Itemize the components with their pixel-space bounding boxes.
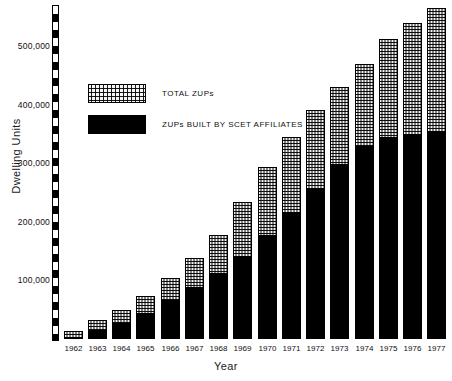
plot-area — [61, 5, 449, 339]
bar-1968 — [209, 235, 228, 339]
legend-label-scet-affiliates: ZUPs BUILT BY SCET AFFILIATES — [162, 120, 303, 129]
bar-1962 — [64, 331, 83, 339]
bar-1972 — [306, 110, 325, 339]
bar-segment-scet-affiliates — [209, 273, 228, 339]
bar-1977 — [427, 8, 446, 339]
bar-segment-scet-affiliates — [355, 146, 374, 339]
bar-segment-scet-affiliates — [282, 212, 301, 339]
bar-1971 — [282, 137, 301, 339]
bar-segment-scet-affiliates — [185, 287, 204, 339]
bar-1973 — [330, 87, 349, 339]
bar-1970 — [258, 167, 277, 339]
y-axis-tick-label: 100,000 — [2, 275, 50, 285]
x-axis-title: Year — [0, 360, 452, 372]
bar-1975 — [379, 39, 398, 339]
bar-segment-scet-affiliates — [403, 134, 422, 339]
bar-segment-scet-affiliates — [233, 256, 252, 339]
legend-label-total-zups: TOTAL ZUPs — [162, 89, 214, 98]
bar-1976 — [403, 23, 422, 339]
bar-segment-scet-affiliates — [427, 131, 446, 339]
bar-segment-scet-affiliates — [112, 323, 131, 339]
legend-swatch-total-zups-icon — [88, 84, 146, 103]
bar-1964 — [112, 310, 131, 339]
bar-segment-scet-affiliates — [64, 337, 83, 339]
y-axis-tick-label: 400,000 — [2, 100, 50, 110]
bar-1965 — [136, 296, 155, 339]
y-axis — [52, 5, 59, 341]
y-axis-tick-label: 500,000 — [2, 41, 50, 51]
bar-1969 — [233, 202, 252, 339]
bar-segment-scet-affiliates — [258, 235, 277, 339]
bar-segment-scet-affiliates — [88, 330, 107, 339]
bar-segment-scet-affiliates — [161, 300, 180, 339]
x-axis-tick-label: 1977 — [420, 344, 452, 353]
bar-segment-scet-affiliates — [306, 188, 325, 339]
bar-segment-scet-affiliates — [136, 313, 155, 339]
bar-chart: Dwelling Units 100,000200,000300,000400,… — [0, 0, 452, 381]
y-axis-tick-label: 300,000 — [2, 158, 50, 168]
bar-segment-scet-affiliates — [379, 137, 398, 339]
y-axis-tick-label: 200,000 — [2, 217, 50, 227]
bar-1966 — [161, 278, 180, 339]
legend-swatch-scet-affiliates-icon — [88, 115, 146, 134]
bar-segment-scet-affiliates — [330, 164, 349, 339]
y-axis-tick-labels: 100,000200,000300,000400,000500,000 — [0, 0, 50, 381]
bar-1963 — [88, 320, 107, 339]
bar-1967 — [185, 258, 204, 339]
bar-1974 — [355, 64, 374, 339]
